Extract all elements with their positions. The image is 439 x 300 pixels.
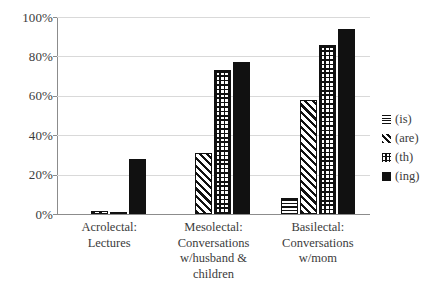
x-axis-category-label-line: Conversations <box>269 236 367 252</box>
plot-area <box>57 17 370 214</box>
chart-legend: (is)(are)(th)(ing) <box>382 110 439 186</box>
x-axis-category-label: Basilectal:Conversationsw/mom <box>266 220 370 296</box>
x-axis-category-label-line: Acrolectal: <box>60 220 158 236</box>
bar-group <box>57 17 161 214</box>
y-axis-tick-label: 0% <box>1 208 53 221</box>
legend-item-label: (th) <box>395 151 413 164</box>
legend-item[interactable]: (are) <box>382 129 439 148</box>
legend-item[interactable]: (is) <box>382 110 439 129</box>
bar-group <box>161 17 265 214</box>
x-axis-category-label-line: Lectures <box>60 236 158 252</box>
bar <box>338 29 355 214</box>
y-axis-tick-label: 20% <box>1 168 53 181</box>
bar <box>214 70 231 214</box>
x-axis-category-label-line: Basilectal: <box>269 220 367 236</box>
legend-swatch-icon <box>382 153 391 162</box>
x-axis-category-label: Acrolectal:Lectures <box>57 220 161 296</box>
y-axis: 100%80%60%40%20%0% <box>0 17 53 214</box>
legend-swatch-icon <box>382 172 391 181</box>
axis-baseline <box>57 214 370 215</box>
bar-chart: 100%80%60%40%20%0% Acrolectal:LecturesMe… <box>0 0 439 300</box>
legend-item-label: (is) <box>395 113 412 126</box>
y-axis-tick-label: 40% <box>1 129 53 142</box>
legend-item[interactable]: (ing) <box>382 167 439 186</box>
legend-item-label: (are) <box>395 132 419 145</box>
x-axis-labels: Acrolectal:LecturesMesolectal:Conversati… <box>57 220 370 296</box>
x-axis-category-label-line: w/husband & <box>164 251 262 267</box>
bar-group <box>266 17 370 214</box>
bar <box>300 100 317 214</box>
legend-item[interactable]: (th) <box>382 148 439 167</box>
x-axis-category-label-line: Conversations <box>164 236 262 252</box>
bar-group-bars <box>161 17 265 214</box>
x-axis-category-label-line: Mesolectal: <box>164 220 262 236</box>
bar-group-bars <box>57 17 161 214</box>
bar-group-bars <box>266 17 370 214</box>
bar <box>319 45 336 214</box>
bar <box>110 212 127 214</box>
bar <box>129 159 146 214</box>
bar <box>91 211 108 214</box>
legend-swatch-icon <box>382 115 391 124</box>
bar <box>195 153 212 214</box>
legend-swatch-icon <box>382 134 391 143</box>
y-axis-tick-label: 80% <box>1 50 53 63</box>
y-axis-tick-label: 100% <box>1 11 53 24</box>
bar <box>233 62 250 214</box>
y-axis-tick-label: 60% <box>1 89 53 102</box>
x-axis-category-label-line: children <box>164 267 262 283</box>
x-axis-category-label-line: w/mom <box>269 251 367 267</box>
bar <box>281 198 298 214</box>
x-axis-category-label: Mesolectal:Conversationsw/husband &child… <box>161 220 265 296</box>
legend-item-label: (ing) <box>395 170 419 183</box>
